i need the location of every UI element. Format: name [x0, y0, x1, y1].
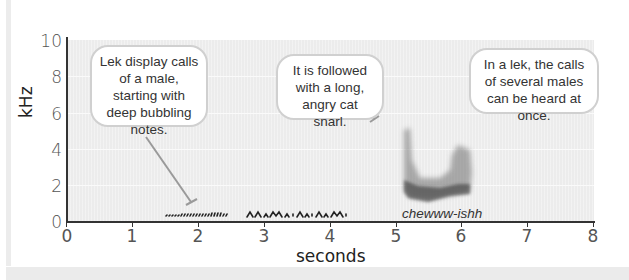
x-tick-label: 7 — [517, 226, 537, 246]
x-tick-label: 8 — [583, 226, 603, 246]
x-tick-label: 3 — [254, 226, 274, 246]
callout-lek-display: Lek display calls of a male, starting wi… — [90, 45, 208, 127]
x-axis-title: seconds — [296, 246, 366, 266]
x-tick-label: 1 — [122, 226, 142, 246]
y-tick-label: 8 — [38, 67, 62, 87]
x-tick-label: 2 — [188, 226, 208, 246]
y-tick-label: 4 — [38, 140, 62, 160]
lek-call-notes — [247, 212, 346, 217]
y-axis-line — [66, 37, 68, 223]
snarl-caption: chewww-ishh — [402, 206, 482, 221]
y-axis-title: kHz — [16, 86, 36, 118]
callout-several-males: In a lek, the calls of several males can… — [469, 48, 599, 114]
x-tick-label: 5 — [386, 226, 406, 246]
y-tick-label: 10 — [38, 31, 62, 51]
y-tick-label: 2 — [38, 176, 62, 196]
bubbling-notes — [166, 213, 227, 216]
callout-cat-snarl: It is followed with a long, angry cat sn… — [276, 54, 384, 120]
y-tick-label: 6 — [38, 104, 62, 124]
x-tick-label: 4 — [320, 226, 340, 246]
x-tick-label: 0 — [57, 226, 77, 246]
x-tick-label: 6 — [451, 226, 471, 246]
snarl-blob — [404, 128, 472, 202]
